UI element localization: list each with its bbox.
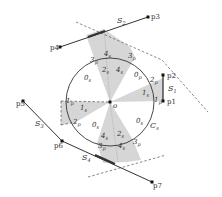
label-p7: p7 bbox=[153, 182, 162, 190]
label-p3: p3 bbox=[151, 13, 160, 21]
label-p1: p1 bbox=[167, 98, 176, 106]
label-s4: S4 bbox=[82, 153, 91, 163]
diagram-svg: p1 p2 p3 p4 p5 p6 p7 S1 S2 S3 S4 Cs o 3p… bbox=[0, 0, 222, 197]
label-p2: p2 bbox=[167, 72, 176, 80]
label-s2: S2 bbox=[117, 16, 126, 26]
point-p3 bbox=[147, 16, 150, 19]
label-cs: Cs bbox=[150, 121, 159, 131]
label-p4: p4 bbox=[50, 44, 59, 52]
diagram-canvas: p1 p2 p3 p4 p5 p6 p7 S1 S2 S3 S4 Cs o 3p… bbox=[0, 0, 222, 197]
label-p5: p5 bbox=[16, 100, 25, 108]
label-s1: S1 bbox=[168, 84, 177, 94]
label-p6: p6 bbox=[54, 142, 63, 150]
point-p2 bbox=[162, 74, 165, 77]
point-p1 bbox=[162, 100, 165, 103]
sector-upper-left-0s: 0s bbox=[84, 74, 91, 83]
sector-lower-right-0s: 0s bbox=[136, 117, 143, 126]
sector-upper-right-0p: 0p bbox=[134, 71, 142, 81]
sector-lower-left-0s: 0s bbox=[92, 121, 99, 130]
label-center: o bbox=[113, 102, 117, 110]
point-center bbox=[109, 101, 112, 104]
top-wedge bbox=[86, 29, 135, 102]
point-p4 bbox=[59, 46, 62, 49]
